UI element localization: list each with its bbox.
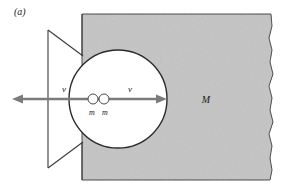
arrow-head-left [12, 95, 23, 104]
panel-label: (a) [14, 6, 26, 18]
velocity-label-left: v [62, 84, 66, 94]
mass-right-circle [99, 94, 109, 104]
velocity-label-right: v [128, 84, 132, 94]
big-mass-label: M [201, 94, 211, 105]
mass-left-circle [88, 94, 98, 104]
funnel-lower-edge [48, 142, 83, 168]
funnel-upper-edge [48, 30, 83, 56]
mass-label-right: m [102, 108, 108, 117]
mass-label-left: m [89, 108, 95, 117]
physics-collision-diagram: (a) v v m m M [0, 0, 292, 193]
figure-panel-a: (a) v v m m M [0, 0, 292, 193]
